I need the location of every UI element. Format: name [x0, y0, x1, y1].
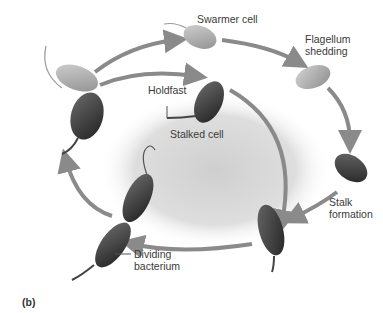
label-swarmer-cell: Swarmer cell [197, 13, 258, 25]
label-stalked-cell: Stalked cell [170, 128, 224, 140]
label-holdfast: Holdfast [148, 84, 187, 96]
label-stalk-formation-1: Stalk [329, 196, 352, 208]
label-flagellum-shedding-2: shedding [305, 45, 348, 57]
caulobacter-cycle-diagram: Swarmer cell Flagellum shedding Holdfast… [0, 0, 383, 313]
panel-label: (b) [22, 296, 35, 308]
label-dividing-1: Dividing [134, 248, 171, 260]
label-dividing-2: bacterium [134, 260, 180, 272]
label-flagellum-shedding-1: Flagellum [305, 33, 351, 45]
label-stalk-formation-2: formation [329, 208, 373, 220]
